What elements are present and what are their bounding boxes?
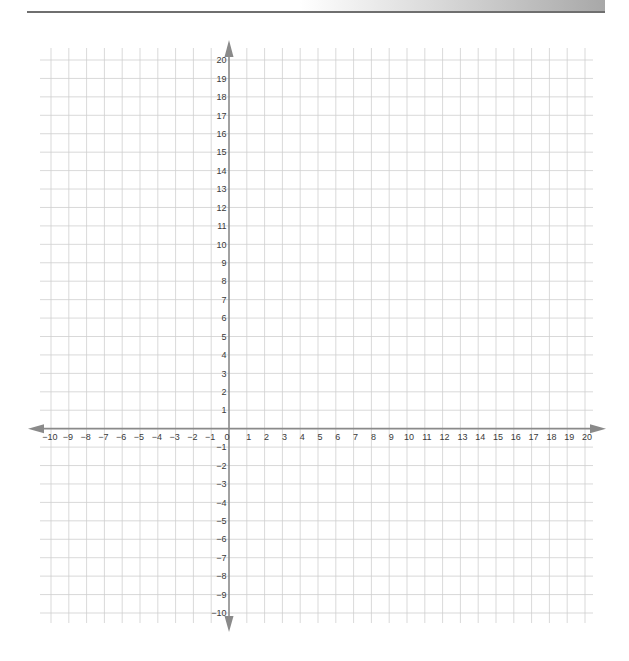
y-tick-label: 13 [216,184,226,194]
x-tick-label: 9 [389,432,394,442]
x-tick-label: 11 [422,432,431,442]
x-tick-label: 17 [529,432,539,442]
x-tick-label: 16 [511,432,521,442]
x-tick-label: 3 [282,432,287,442]
x-tick-label: −7 [98,432,108,442]
y-tick-label: 14 [216,166,226,176]
y-tick-label: 7 [221,295,226,305]
x-tick-label: 7 [353,432,358,442]
y-tick-label: 9 [221,258,226,268]
x-tick-label: −1 [205,432,215,442]
x-tick-label: −6 [116,432,126,442]
x-tick-label: 13 [457,432,467,442]
x-tick-label: −2 [187,432,197,442]
y-tick-label: 2 [221,387,226,397]
x-tick-label: 2 [264,432,269,442]
y-tick-label: 20 [216,55,226,65]
x-axis-tick-labels: −10−9−8−7−6−5−4−3−2−10123456789101112131… [42,432,592,442]
y-tick-label: 5 [221,332,226,342]
x-tick-label: 5 [317,432,322,442]
y-axis-down-arrow-icon [225,616,234,632]
y-tick-label: −3 [216,479,226,489]
y-tick-label: −5 [216,516,226,526]
axes [28,40,606,632]
y-tick-label: 8 [221,276,226,286]
x-tick-label: 20 [582,432,592,442]
x-tick-label: 18 [546,432,556,442]
y-tick-label: −7 [216,553,226,563]
x-tick-label: −5 [134,432,144,442]
y-tick-label: 18 [216,92,226,102]
y-tick-label: −9 [216,590,226,600]
y-tick-label: 17 [216,111,226,121]
x-tick-label: 19 [564,432,574,442]
y-tick-label: −6 [216,534,226,544]
y-tick-label: 12 [216,203,226,213]
x-tick-label: 10 [404,432,414,442]
y-tick-label: 19 [216,74,226,84]
y-tick-label: 3 [221,369,226,379]
y-tick-label: 4 [221,350,226,360]
coordinate-plane: −10−9−8−7−6−5−4−3−2−10123456789101112131… [0,0,629,661]
y-tick-label: 16 [216,129,226,139]
x-tick-label: 12 [440,432,450,442]
x-axis-right-arrow-icon [590,424,606,433]
y-tick-label: 15 [216,147,226,157]
y-tick-label: 11 [217,221,226,231]
x-tick-label: −10 [42,432,57,442]
y-tick-label: 10 [216,240,226,250]
y-tick-label: −4 [216,498,226,508]
x-tick-label: −3 [169,432,179,442]
x-tick-label: −8 [80,432,90,442]
y-tick-label: −2 [216,461,226,471]
y-tick-label: −10 [211,608,226,618]
y-tick-label: −1 [216,442,226,452]
x-tick-label: 0 [224,432,229,442]
y-tick-label: 6 [221,313,226,323]
y-tick-label: −8 [216,571,226,581]
x-tick-label: 1 [246,432,251,442]
x-tick-label: 4 [300,432,305,442]
x-tick-label: −9 [63,432,73,442]
grid-lines [40,48,593,623]
x-tick-label: 6 [335,432,340,442]
x-tick-label: 15 [493,432,503,442]
y-tick-label: 1 [221,405,226,415]
x-tick-label: −4 [152,432,162,442]
x-tick-label: 8 [371,432,376,442]
x-tick-label: 14 [475,432,485,442]
